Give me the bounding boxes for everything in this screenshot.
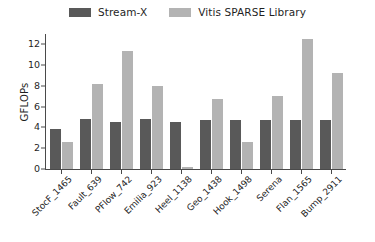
y-tick-mark [41,65,45,66]
bar [290,120,301,169]
bar-group [46,34,76,169]
y-tick-mark [41,106,45,107]
bar [272,96,283,169]
bar [92,84,103,169]
bar [260,120,271,169]
x-tick-mark [181,170,182,174]
bar-group [316,34,346,169]
bar [140,119,151,169]
bar-group [106,34,136,169]
plot-area: GFLOPs [46,34,346,169]
bar-group [166,34,196,169]
y-tick-mark [41,148,45,149]
legend-entry: Stream-X [69,6,147,18]
bar [212,99,223,169]
bar-group [196,34,226,169]
legend-label: Stream-X [98,6,147,18]
x-tick-mark [331,170,332,174]
legend-swatch [169,8,191,17]
bar [122,51,133,169]
y-axis-label: GFLOPs [19,82,30,121]
bar [80,119,91,169]
bar [320,120,331,169]
bar-group [256,34,286,169]
legend-swatch [69,8,91,17]
y-tick-mark [41,85,45,86]
bar [242,142,253,169]
bar [170,122,181,169]
x-tick-mark [61,170,62,174]
bar [230,120,241,169]
x-tick-mark [121,170,122,174]
bar [182,167,193,169]
bar-group [136,34,166,169]
bar [302,39,313,169]
y-tick-mark [41,169,45,170]
bar [152,86,163,169]
y-tick-mark [41,127,45,128]
x-tick-mark [271,170,272,174]
bar [50,129,61,170]
x-tick-label: StocF_1465 [20,174,74,228]
chart-legend: Stream-XVitis SPARSE Library [0,6,375,18]
bar-group [226,34,256,169]
x-tick-mark [91,170,92,174]
legend-label: Vitis SPARSE Library [198,6,306,18]
x-tick-mark [211,170,212,174]
bar-chart: Stream-XVitis SPARSE Library 024681012 G… [0,0,375,242]
bar [62,142,73,169]
bar [110,122,121,169]
bar-group [286,34,316,169]
bar [200,120,211,169]
y-tick-mark [41,44,45,45]
bar-groups [46,34,346,169]
bar [332,73,343,169]
bar-group [76,34,106,169]
x-tick-mark [301,170,302,174]
x-tick-mark [151,170,152,174]
x-tick-mark [241,170,242,174]
legend-entry: Vitis SPARSE Library [169,6,306,18]
